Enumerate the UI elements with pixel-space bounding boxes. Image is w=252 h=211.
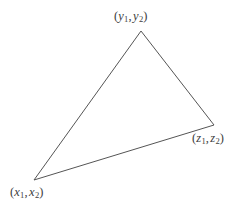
close-paren-x: ) [39, 185, 43, 199]
triangle-shape [0, 0, 252, 211]
vertex-label-z: (z1,z2) [192, 132, 224, 146]
variable-y-2: y [133, 9, 139, 23]
close-paren-y: ) [143, 9, 147, 23]
vertex-label-y: (y1,y2) [114, 10, 147, 24]
variable-x-2: x [29, 185, 35, 199]
triangle-diagram: (y1,y2) (z1,z2) (x1,x2) [0, 0, 252, 211]
close-paren-z: ) [220, 131, 224, 145]
vertex-label-x: (x1,x2) [10, 186, 43, 200]
triangle-outline [34, 31, 214, 180]
